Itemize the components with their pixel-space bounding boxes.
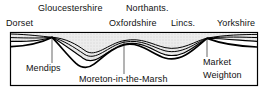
label-oxfordshire: Oxfordshire [109,19,157,28]
label-northants: Northants. [126,4,169,13]
label-gloucestershire: Gloucestershire [38,4,103,13]
label-dorset: Dorset [6,19,33,28]
label-moreton-in-the-marsh: Moreton-in-the-Marsh [79,75,168,84]
label-lincs: Lincs. [171,19,195,28]
label-yorkshire: Yorkshire [217,19,255,28]
label-mendips: Mendips [26,64,61,73]
label-weighton: Weighton [203,71,242,80]
label-market: Market [203,58,231,67]
cross-section-figure: Gloucestershire Northants. Dorset Oxford… [0,0,275,89]
